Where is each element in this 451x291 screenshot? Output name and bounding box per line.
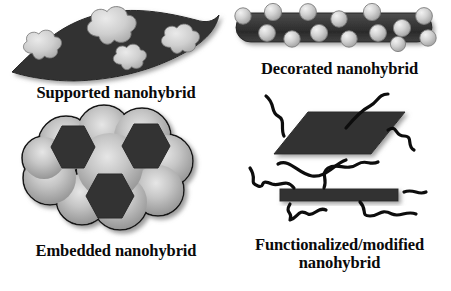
- nanohybrid-figure: Supported nanohybrid: [0, 0, 451, 291]
- caption-embedded-nanohybrid: Embedded nanohybrid: [0, 242, 232, 260]
- caption-decorated-nanohybrid: Decorated nanohybrid: [228, 60, 451, 78]
- polymer-chain: [250, 168, 294, 188]
- polymer-chain: [288, 204, 326, 220]
- decorating-sphere: [331, 11, 347, 27]
- supported-nanohybrid-illustration: [0, 0, 232, 86]
- decorating-sphere: [393, 19, 410, 36]
- functionalized-nanohybrid-illustration: [228, 92, 451, 238]
- decorating-sphere: [390, 36, 405, 51]
- nanosheet-parallelogram: [274, 112, 405, 154]
- caption-functionalized-nanohybrid: Functionalized/modified nanohybrid: [228, 236, 451, 272]
- panel-decorated-nanohybrid: Decorated nanohybrid: [228, 0, 451, 84]
- polymer-chain: [266, 96, 284, 136]
- polymer-chain: [278, 160, 346, 176]
- panel-supported-nanohybrid: Supported nanohybrid: [0, 0, 232, 106]
- caption-supported-nanohybrid: Supported nanohybrid: [0, 84, 232, 102]
- panel-embedded-nanohybrid: Embedded nanohybrid: [0, 104, 232, 291]
- polymer-chain: [360, 202, 416, 216]
- polymer-chain: [388, 128, 414, 150]
- decorating-sphere: [300, 4, 317, 21]
- embedded-nanohybrid-illustration: [0, 104, 232, 244]
- polymer-chain: [324, 162, 378, 188]
- polymer-chain: [404, 191, 426, 193]
- panel-functionalized-nanohybrid: Functionalized/modified nanohybrid: [228, 92, 451, 291]
- decorating-sphere: [363, 3, 380, 20]
- decorating-sphere: [416, 8, 433, 25]
- decorating-sphere: [420, 30, 436, 46]
- decorating-sphere: [310, 24, 327, 41]
- decorating-sphere: [284, 31, 300, 47]
- decorating-sphere: [259, 25, 276, 42]
- nanobar: [280, 189, 398, 201]
- decorating-sphere: [341, 31, 357, 47]
- decorating-sphere: [264, 3, 281, 20]
- decorating-sphere: [235, 8, 251, 24]
- decorating-sphere: [370, 25, 387, 42]
- decorated-nanohybrid-illustration: [228, 0, 451, 62]
